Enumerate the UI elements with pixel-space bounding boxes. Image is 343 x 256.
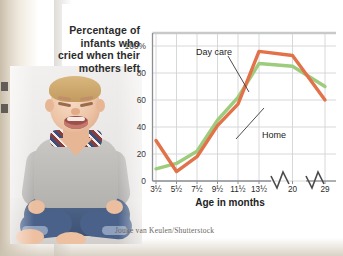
series-label-home: Home [262,130,286,140]
chart-gridlines [153,33,337,181]
series-label-day-care: Day care [196,47,232,57]
x-tick-label: 13½ [242,185,276,194]
figure-container: Percentage of infants who cried when the… [0,0,343,256]
x-axis-title: Age in months [170,197,290,208]
chart-svg [0,0,343,256]
line-chart: 020406080100% 3½5½7½9½11½13½2029 Age in … [0,0,343,256]
y-tick-label: 40 [108,122,146,132]
x-tick-label: 20 [276,185,310,194]
y-tick-label: 60 [108,95,146,105]
y-tick-label: 100% [108,41,146,51]
y-tick-label: 80 [108,68,146,78]
chart-axes [153,33,337,188]
y-tick-label: 20 [108,149,146,159]
chart-series [156,51,325,171]
y-tick-label: 0 [108,176,146,186]
photo-credit: Jouke van Keulen/Shutterstock [115,226,214,235]
x-tick-label: 29 [308,185,342,194]
